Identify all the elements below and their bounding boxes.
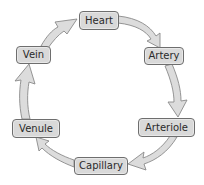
node-vein-label: Vein — [23, 50, 44, 60]
node-heart-label: Heart — [85, 16, 113, 26]
node-venule-label: Venule — [19, 124, 53, 134]
node-artery: Artery — [144, 47, 184, 65]
node-venule: Venule — [12, 119, 60, 138]
node-heart: Heart — [79, 11, 119, 30]
blood-circulation-cycle-diagram: Heart Artery Arteriole Capillary Venule … — [0, 0, 204, 185]
node-artery-label: Artery — [148, 51, 179, 61]
arrow-capillary-to-venule — [36, 137, 74, 167]
arrow-heart-to-artery — [118, 16, 160, 48]
arrow-artery-to-arteriole — [165, 64, 187, 117]
node-arteriole-label: Arteriole — [145, 123, 188, 133]
node-arteriole: Arteriole — [138, 118, 195, 137]
arrow-vein-to-heart — [41, 19, 77, 48]
node-capillary: Capillary — [74, 157, 128, 175]
node-vein: Vein — [16, 46, 51, 64]
arrow-arteriole-to-capillary — [128, 136, 177, 170]
arrow-venule-to-vein — [15, 64, 35, 119]
node-capillary-label: Capillary — [79, 161, 123, 171]
